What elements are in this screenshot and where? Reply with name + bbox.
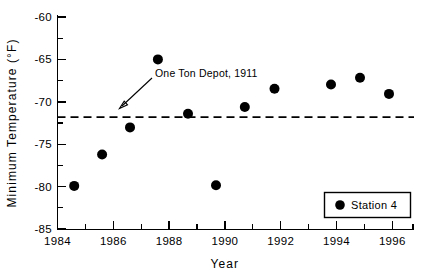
y-tick-label: -60 bbox=[34, 11, 52, 23]
y-axis-minor-ticks bbox=[58, 38, 64, 208]
x-tick-label: 1990 bbox=[212, 235, 239, 247]
x-axis-title: Year bbox=[211, 257, 240, 271]
data-point bbox=[326, 80, 336, 90]
data-point bbox=[183, 109, 193, 119]
data-point bbox=[270, 84, 280, 94]
data-point bbox=[384, 89, 394, 99]
x-axis-major-ticks bbox=[58, 221, 393, 230]
data-point bbox=[211, 180, 221, 190]
x-tick-label: 1984 bbox=[44, 235, 71, 247]
y-tick-label: -80 bbox=[34, 181, 52, 193]
legend-marker-icon bbox=[335, 200, 345, 210]
y-axis-title: Minimum Temperature (°F) bbox=[5, 38, 19, 207]
annotation-arrow bbox=[120, 78, 153, 109]
data-point bbox=[69, 181, 79, 191]
x-tick-label: 1988 bbox=[156, 235, 183, 247]
data-point bbox=[97, 150, 107, 160]
scatter-plot-svg: -60 -65 -70 -75 -80 -85 1984 1986 1988 1… bbox=[0, 0, 427, 274]
data-point bbox=[125, 122, 135, 132]
legend-label-station-4: Station 4 bbox=[351, 199, 397, 211]
y-axis-tick-labels: -60 -65 -70 -75 -80 -85 bbox=[34, 11, 52, 235]
y-tick-label: -85 bbox=[34, 223, 52, 235]
x-axis-tick-labels: 1984 1986 1988 1990 1992 1994 1996 bbox=[44, 235, 406, 247]
x-tick-label: 1986 bbox=[100, 235, 127, 247]
x-axis-minor-ticks bbox=[85, 224, 413, 230]
data-point bbox=[240, 102, 250, 112]
data-point bbox=[153, 54, 163, 64]
x-tick-label: 1992 bbox=[267, 235, 294, 247]
x-tick-label: 1994 bbox=[323, 235, 350, 247]
legend: Station 4 bbox=[325, 193, 411, 218]
data-point bbox=[355, 73, 365, 83]
y-tick-label: -65 bbox=[34, 53, 52, 65]
y-tick-label: -70 bbox=[34, 96, 52, 108]
y-tick-label: -75 bbox=[34, 138, 52, 150]
chart-figure: -60 -65 -70 -75 -80 -85 1984 1986 1988 1… bbox=[0, 0, 427, 274]
x-tick-label: 1996 bbox=[379, 235, 406, 247]
annotation-label-one-ton-depot: One Ton Depot, 1911 bbox=[155, 67, 258, 79]
